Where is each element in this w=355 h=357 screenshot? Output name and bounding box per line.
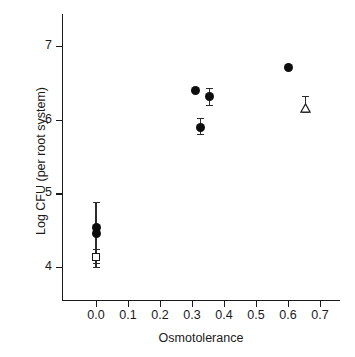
x-axis-tick: [288, 301, 289, 307]
error-bar-cap: [93, 267, 100, 268]
x-axis-tick: [128, 301, 129, 307]
x-axis-tick: [96, 301, 97, 307]
error-bar-cap: [302, 96, 309, 97]
error-bar-cap: [206, 105, 213, 106]
error-bar-cap: [197, 118, 204, 119]
x-axis-tick: [192, 301, 193, 307]
x-axis-tick: [224, 301, 225, 307]
x-axis-tick: [320, 301, 321, 307]
data-point-filled-circle: [205, 92, 214, 101]
error-bar-cap: [197, 134, 204, 135]
y-axis-tick: [56, 193, 62, 194]
y-axis-tick: [56, 120, 62, 121]
x-axis-tick: [160, 301, 161, 307]
y-axis-tick: [56, 46, 62, 47]
error-bar-cap: [93, 249, 100, 250]
data-point-filled-circle: [92, 229, 101, 238]
x-axis-title: Osmotolerance: [62, 331, 340, 345]
x-axis-tick: [256, 301, 257, 307]
data-point-open-triangle: [300, 99, 311, 109]
y-axis-title: Log CFU (per root system): [34, 41, 48, 281]
error-bar-cap: [93, 202, 100, 203]
x-axis-line: [62, 300, 340, 301]
data-point-filled-circle: [196, 123, 205, 132]
data-point-filled-circle: [284, 63, 293, 72]
data-point-filled-circle: [191, 86, 200, 95]
y-axis-tick: [56, 267, 62, 268]
error-bar-cap: [206, 88, 213, 89]
y-axis-line: [62, 14, 63, 301]
x-axis-tick-label: 0.7: [300, 309, 340, 322]
scatter-plot-figure: 4567 0.00.10.20.30.40.50.60.7 Osmotolera…: [0, 0, 355, 357]
data-point-open-square: [92, 253, 100, 261]
